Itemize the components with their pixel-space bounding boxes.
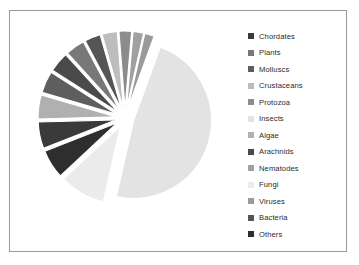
- legend-swatch-icon: [248, 50, 254, 56]
- legend-swatch-icon: [248, 66, 254, 72]
- legend-item[interactable]: Nematodes: [248, 160, 344, 177]
- legend-item-label: Crustaceans: [259, 81, 303, 90]
- pie-chart-plot-area: [12, 13, 240, 249]
- legend-item-label: Arachnids: [259, 147, 294, 156]
- pie-chart-svg: [12, 13, 240, 249]
- legend-item[interactable]: Fungi: [248, 177, 344, 194]
- legend-item[interactable]: Viruses: [248, 193, 344, 210]
- legend-item-label: Protozoa: [259, 98, 290, 107]
- legend-item[interactable]: Protozoa: [248, 94, 344, 111]
- legend-item[interactable]: Plants: [248, 45, 344, 62]
- legend-swatch-icon: [248, 215, 254, 221]
- legend-item[interactable]: Others: [248, 226, 344, 243]
- legend-item[interactable]: Bacteria: [248, 210, 344, 227]
- legend-item-label: Insects: [259, 114, 284, 123]
- legend-swatch-icon: [248, 116, 254, 122]
- legend-swatch-icon: [248, 83, 254, 89]
- legend-item-label: Fungi: [259, 180, 279, 189]
- chart-figure: ChordatesPlantsMolluscsCrustaceansProtoz…: [0, 0, 359, 265]
- legend-item[interactable]: Chordates: [248, 28, 344, 45]
- legend-item[interactable]: Crustaceans: [248, 78, 344, 95]
- legend-swatch-icon: [248, 231, 254, 237]
- chart-legend: ChordatesPlantsMolluscsCrustaceansProtoz…: [248, 28, 344, 243]
- legend-item[interactable]: Molluscs: [248, 61, 344, 78]
- legend-swatch-icon: [248, 149, 254, 155]
- legend-item-label: Molluscs: [259, 65, 289, 74]
- legend-item-label: Viruses: [259, 197, 285, 206]
- legend-swatch-icon: [248, 198, 254, 204]
- legend-item-label: Nematodes: [259, 164, 299, 173]
- legend-item-label: Algae: [259, 131, 279, 140]
- legend-item-label: Others: [259, 230, 282, 239]
- legend-item[interactable]: Insects: [248, 111, 344, 128]
- legend-item[interactable]: Arachnids: [248, 144, 344, 161]
- legend-swatch-icon: [248, 99, 254, 105]
- legend-swatch-icon: [248, 132, 254, 138]
- pie-slice-group: [38, 31, 212, 202]
- legend-item[interactable]: Algae: [248, 127, 344, 144]
- legend-item-label: Bacteria: [259, 213, 288, 222]
- legend-item-label: Plants: [259, 48, 281, 57]
- legend-swatch-icon: [248, 33, 254, 39]
- legend-swatch-icon: [248, 182, 254, 188]
- legend-item-label: Chordates: [259, 32, 295, 41]
- legend-swatch-icon: [248, 165, 254, 171]
